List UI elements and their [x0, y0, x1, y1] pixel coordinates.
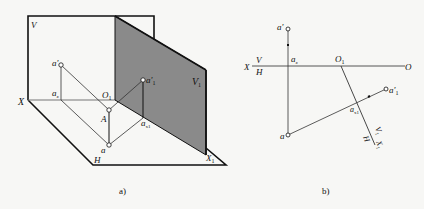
caption-a: a) [119, 186, 126, 196]
point-a1-prime-b [384, 87, 388, 91]
label-a-prime-b: a' [277, 22, 285, 32]
label-V1-b: V1 [372, 125, 384, 136]
label-a: a [101, 145, 106, 155]
label-A: A [100, 114, 107, 124]
x1-axis-b [341, 66, 375, 145]
point-a-prime-b [286, 27, 290, 31]
label-a-prime: a' [52, 58, 60, 68]
label-V: V [31, 20, 38, 30]
label-V-b: V [256, 55, 263, 65]
point-a1-prime [141, 78, 145, 82]
point-A [107, 108, 111, 112]
label-X: X [17, 96, 25, 107]
label-O1-b: O1 [335, 54, 345, 65]
label-ax: ax [52, 88, 60, 99]
label-H1-b: H [361, 133, 372, 144]
label-X-b: X [243, 62, 250, 72]
point-a-prime [59, 63, 63, 67]
point-a-b [286, 133, 290, 137]
label-ax-b: ax [291, 54, 299, 65]
projection-diagram: V V1 X X1 H O1 a' a'1 ax ax1 A a a) X V … [0, 0, 424, 209]
label-a-b: a [280, 131, 285, 141]
point-a [107, 143, 111, 147]
figure-a: V V1 X X1 H O1 a' a'1 ax ax1 A a a) [17, 16, 226, 196]
label-a1-prime-b: a'1 [389, 85, 398, 96]
label-H: H [93, 155, 101, 165]
label-O1: O1 [102, 90, 112, 101]
caption-b: b) [322, 186, 330, 196]
label-O-b: O [405, 62, 412, 72]
label-H-b: H [255, 67, 263, 77]
figure-b: X V H O O1 a' ax a a'1 ax1 V1 H X1 b) [243, 22, 412, 196]
